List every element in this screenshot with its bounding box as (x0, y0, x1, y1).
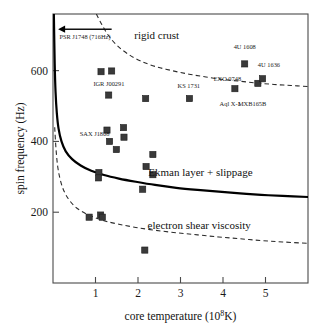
plot-frame (53, 14, 308, 283)
y-tick-label: 600 (31, 65, 49, 77)
x-axis-title-tail: K) (224, 310, 236, 323)
x-axis-title: core temperature (108K) (125, 309, 237, 323)
curve-rigid-crust (96, 14, 308, 87)
x-tick-label: 1 (93, 287, 99, 299)
data-point-labels: IGR J00291SAX J1808EXO 0748Aql X-1MXB165… (80, 43, 280, 136)
point-label: EXO 0748 (214, 75, 242, 82)
x-axis-title-main: core temperature (10 (125, 310, 221, 323)
point-label: IGR J00291 (93, 80, 124, 87)
curve-label-rigid-crust: rigid crust (134, 29, 179, 41)
x-tick-label: 5 (263, 287, 269, 299)
data-point-marker (232, 86, 238, 92)
data-point-marker (120, 125, 126, 131)
data-point-marker (242, 61, 248, 67)
data-point-marker (113, 146, 119, 152)
model-curves (54, 14, 308, 243)
x-tick-label: 3 (178, 287, 184, 299)
spin-frequency-vs-core-temperature-chart: 12345200400600 IGR J00291SAX J1808EXO 07… (0, 0, 326, 326)
data-point-marker (143, 95, 149, 101)
y-axis-title: spin frequency (Hz) (14, 102, 27, 194)
point-label: MXB165B (238, 100, 266, 107)
annotation-arrow-head (58, 26, 65, 33)
data-point-marker (150, 151, 156, 157)
data-point-marker (106, 92, 112, 98)
data-point-marker (99, 214, 105, 220)
data-point-marker (186, 95, 192, 101)
annotation-label: PSR J1748 (716Hz) (59, 33, 110, 41)
plot-border (53, 14, 308, 283)
data-point-marker (142, 247, 148, 253)
point-label: SAX J1808 (80, 130, 110, 137)
data-point-marker (106, 138, 112, 144)
data-point-marker (140, 186, 146, 192)
y-tick-label: 200 (31, 206, 49, 218)
curve-label-electron-shear-viscosity: electron shear viscosity (148, 219, 252, 231)
y-tick-label: 400 (31, 135, 49, 147)
curve-label-ekman-layer-slippage: Ekman layer + slippage (148, 166, 252, 178)
point-label: KS 1731 (178, 82, 201, 89)
data-point-marker (121, 134, 127, 140)
figure-container: 12345200400600 IGR J00291SAX J1808EXO 07… (0, 0, 326, 326)
data-point-marker (86, 214, 92, 220)
data-point-marker (109, 68, 115, 74)
data-point-marker (259, 76, 265, 82)
point-label: 4U 1608 (234, 43, 256, 50)
data-point-marker (98, 69, 104, 75)
data-point-marker (95, 175, 101, 181)
x-tick-label: 2 (135, 287, 141, 299)
point-label: 4U 1636 (258, 61, 280, 68)
curve-labels: rigid crustEkman layer + slippageelectro… (134, 29, 252, 231)
x-tick-label: 4 (220, 287, 226, 299)
